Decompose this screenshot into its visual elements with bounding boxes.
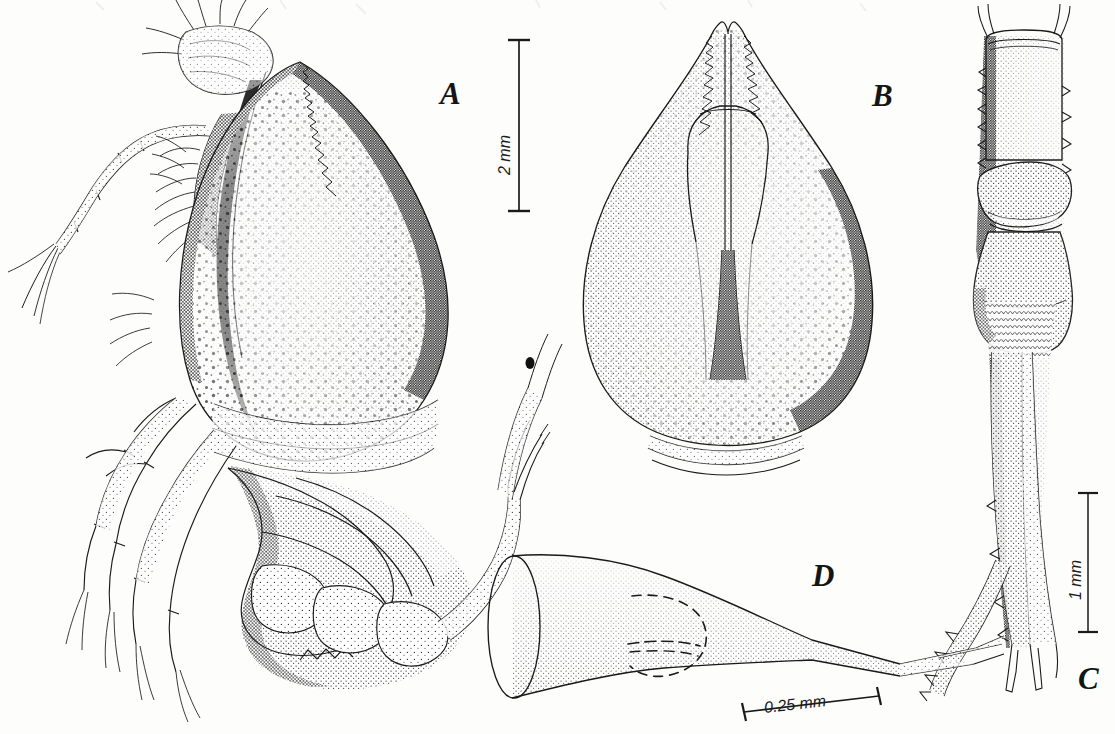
panel-b-artwork <box>560 20 890 475</box>
illustration-plate: A B C D 2 mm 1 mm 0.25 mm <box>0 0 1115 734</box>
panel-label-c: C <box>1078 663 1099 694</box>
panel-a-artwork <box>8 0 562 722</box>
panel-d-artwork <box>480 548 1004 714</box>
scale-label-2mm: 2 mm <box>497 135 513 175</box>
plate-artwork <box>0 0 1115 734</box>
panel-a-carapace <box>150 55 490 485</box>
panel-label-d: D <box>812 560 834 591</box>
panel-a-leg-setae <box>66 293 200 722</box>
scale-bar-2mm <box>508 39 530 212</box>
panel-label-b: B <box>872 80 893 111</box>
scale-label-1mm: 1 mm <box>1068 560 1084 600</box>
scan-artifact <box>96 0 866 14</box>
panel-a-mouthparts <box>142 0 273 94</box>
panel-c-segment-3 <box>974 232 1075 358</box>
panel-label-a: A <box>440 78 461 109</box>
